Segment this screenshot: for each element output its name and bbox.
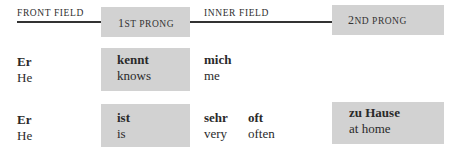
row2-first-prong: ist is xyxy=(117,110,130,142)
row1-first-prong-box: kennt knows xyxy=(101,48,190,91)
front-field-label: FRONT FIELD xyxy=(17,8,84,18)
row1-inner-field-word-1: mich me xyxy=(204,52,231,84)
second-prong-header-box: 2ND PRONG xyxy=(332,5,444,35)
row2-second-prong-box: zu Hause at home xyxy=(332,102,444,144)
row1-first-prong: kennt knows xyxy=(117,52,151,84)
field-divider-line-left xyxy=(17,21,101,23)
row1-front-field: Er He xyxy=(17,54,32,86)
inner-field-label: INNER FIELD xyxy=(204,8,269,18)
row2-first-prong-box: ist is xyxy=(101,104,190,147)
second-prong-label: 2ND PRONG xyxy=(348,13,407,28)
row2-inner-field-word-1: sehr very xyxy=(204,110,228,142)
first-prong-label: 1ST PRONG xyxy=(118,16,174,31)
row2-second-prong: zu Hause at home xyxy=(349,105,400,137)
first-prong-header-box: 1ST PRONG xyxy=(101,7,190,37)
row2-front-field: Er He xyxy=(17,112,32,144)
field-divider-line-mid xyxy=(190,21,332,23)
row2-inner-field-word-2: oft often xyxy=(248,110,275,142)
